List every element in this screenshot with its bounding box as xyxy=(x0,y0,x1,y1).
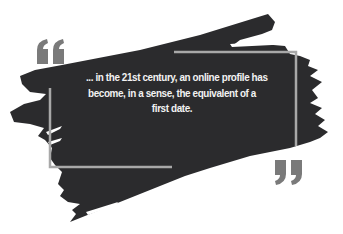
quote-line-1: ... in the 21st century, an online profi… xyxy=(86,70,258,86)
quote-line-2: become, in a sense, the equivalent of a xyxy=(86,86,258,102)
quote-graphic: ... in the 21st century, an online profi… xyxy=(0,0,343,234)
brush-stroke-background xyxy=(0,0,343,234)
quote-line-3: first date. xyxy=(86,101,258,117)
close-quote-icon xyxy=(273,159,305,187)
open-quote-icon xyxy=(35,38,67,66)
quote-text: ... in the 21st century, an online profi… xyxy=(86,70,258,117)
